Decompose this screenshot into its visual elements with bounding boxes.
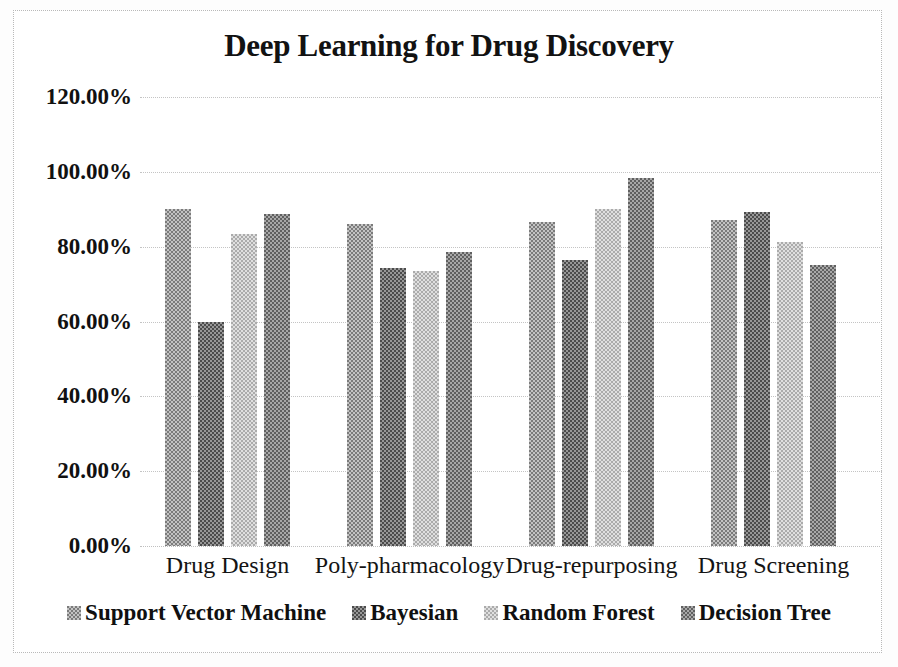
legend-label: Decision Tree [699, 600, 831, 626]
bar [264, 214, 290, 546]
legend-swatch-icon [67, 606, 81, 620]
y-axis-tick-label: 100.00% [12, 159, 132, 185]
plot-area [140, 97, 882, 546]
legend-swatch-icon [484, 606, 498, 620]
bar [628, 178, 654, 546]
bar [777, 242, 803, 546]
y-axis-tick-label: 60.00% [12, 309, 132, 335]
chart-title: Deep Learning for Drug Discovery [0, 28, 898, 64]
y-axis-tick-label: 120.00% [12, 84, 132, 110]
x-axis-baseline [140, 546, 882, 547]
bar [380, 268, 406, 546]
y-axis: 120.00%100.00%80.00%60.00%40.00%20.00%0.… [8, 97, 132, 546]
bar [711, 220, 737, 546]
y-axis-tick-label: 80.00% [12, 234, 132, 260]
bar [165, 209, 191, 546]
bar [744, 212, 770, 546]
bar [595, 209, 621, 546]
legend-swatch-icon [681, 606, 695, 620]
y-axis-tick-label: 20.00% [12, 458, 132, 484]
bar [231, 234, 257, 546]
legend-item[interactable]: Random Forest [484, 600, 654, 626]
legend-swatch-icon [352, 606, 366, 620]
bar [810, 265, 836, 546]
legend-label: Random Forest [502, 600, 654, 626]
chart-legend: Support Vector MachineBayesianRandom For… [0, 600, 898, 626]
y-axis-tick-label: 0.00% [12, 533, 132, 559]
bar [446, 252, 472, 546]
bar [347, 224, 373, 546]
legend-item[interactable]: Decision Tree [681, 600, 831, 626]
bar [529, 222, 555, 546]
gridline [140, 97, 882, 98]
legend-label: Bayesian [370, 600, 458, 626]
bar [562, 260, 588, 546]
chart-container: Deep Learning for Drug Discovery 120.00%… [0, 0, 898, 667]
legend-item[interactable]: Support Vector Machine [67, 600, 326, 626]
bar [413, 271, 439, 546]
gridline [140, 172, 882, 173]
x-axis-tick-label: Drug Screening [664, 552, 884, 579]
legend-label: Support Vector Machine [85, 600, 326, 626]
legend-item[interactable]: Bayesian [352, 600, 458, 626]
x-axis: Drug DesignPoly-pharmacologyDrug-repurpo… [140, 552, 882, 588]
bar [198, 322, 224, 547]
y-axis-tick-label: 40.00% [12, 383, 132, 409]
